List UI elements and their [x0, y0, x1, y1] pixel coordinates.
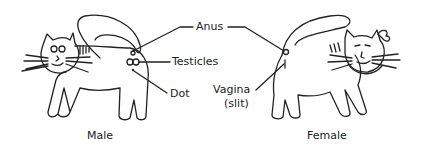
male-eye-left — [51, 46, 57, 52]
female-caption: Female — [307, 130, 347, 141]
female-cat-drawing — [272, 15, 400, 118]
anus-leader-male — [133, 27, 193, 51]
dot-label: Dot — [170, 88, 190, 99]
vagina-note-label: (slit) — [224, 98, 249, 109]
female-anus-mark — [284, 50, 289, 55]
anus-leader-female — [228, 27, 284, 51]
male-testicle-left — [127, 59, 133, 65]
cat-sexing-diagram: Anus Testicles Dot Vagina (slit) Male Fe… — [0, 0, 425, 150]
male-caption: Male — [87, 130, 113, 141]
female-whiskers — [328, 54, 400, 70]
male-nose-mouth — [52, 56, 63, 65]
female-stripes — [330, 43, 340, 52]
male-stripes — [80, 46, 89, 54]
female-head — [345, 30, 384, 72]
dot-leader — [134, 71, 167, 93]
anus-label: Anus — [196, 21, 223, 32]
male-cat-drawing — [22, 15, 148, 119]
male-testicle-right — [133, 59, 139, 65]
vagina-label: Vagina — [213, 84, 250, 95]
male-eye-right — [59, 46, 65, 52]
testicles-label: Testicles — [172, 56, 218, 67]
male-whiskers — [22, 55, 92, 72]
female-eyes — [355, 45, 370, 46]
vagina-leader — [256, 64, 284, 90]
